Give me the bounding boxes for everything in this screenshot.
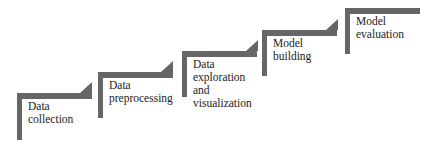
step-top-bar (98, 72, 173, 78)
step-top-bar (345, 8, 420, 14)
step-arrow-triangle (80, 82, 92, 93)
step-top-bar (182, 51, 257, 57)
step-arrow-triangle (161, 61, 173, 72)
step-side-bar (262, 30, 267, 76)
step-arrow-triangle (326, 19, 338, 30)
step-label: Data preprocessing (109, 79, 173, 105)
step-top-bar (262, 30, 337, 36)
step-arrow-triangle (246, 40, 258, 51)
step-label: Data collection (28, 100, 73, 126)
step-top-bar (17, 93, 92, 99)
step-label: Data exploration and visualization (193, 58, 252, 110)
step-side-bar (345, 8, 350, 54)
step-label: Model building (273, 37, 311, 63)
step-label: Model evaluation (356, 15, 404, 41)
step-side-bar (182, 51, 187, 97)
step-side-bar (98, 72, 103, 118)
step-side-bar (17, 93, 22, 140)
